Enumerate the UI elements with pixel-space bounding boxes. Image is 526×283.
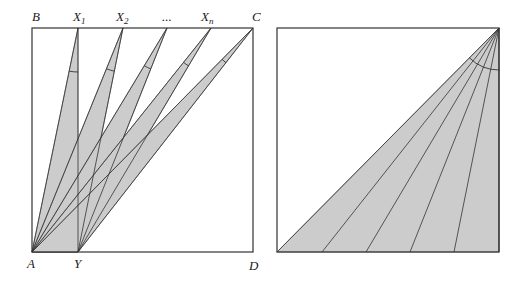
label-D: D: [248, 258, 259, 273]
right-figure: [277, 28, 499, 252]
label-B: B: [32, 9, 40, 24]
label-Xn: Xn: [200, 9, 214, 26]
left-figure: B X1 X2 ... Xn C A Y D: [26, 9, 261, 273]
label-Y: Y: [74, 256, 83, 271]
label-X2: X2: [115, 9, 129, 26]
label-C: C: [252, 9, 261, 24]
label-X1: X1: [72, 9, 85, 26]
label-A: A: [26, 256, 35, 271]
geometry-diagram: B X1 X2 ... Xn C A Y D: [0, 0, 526, 283]
label-ellipsis: ...: [162, 9, 172, 24]
